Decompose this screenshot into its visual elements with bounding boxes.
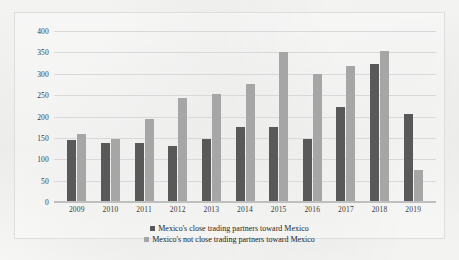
bar: [380, 51, 389, 202]
x-axis-tick-label: 2011: [127, 205, 161, 214]
chart-legend: Mexico's close trading partners toward M…: [15, 224, 444, 244]
y-axis-tick-label: 250: [37, 91, 49, 100]
bar: [303, 139, 312, 202]
bar: [236, 127, 245, 202]
bar-group: [127, 31, 161, 202]
x-axis-tick-label: 2015: [262, 205, 296, 214]
bar: [67, 140, 76, 202]
bar-group: [94, 31, 128, 202]
bar: [370, 64, 379, 202]
legend-swatch-icon: [144, 237, 149, 242]
x-axis-line: [54, 201, 436, 202]
bar: [336, 107, 345, 202]
bar-group: [262, 31, 296, 202]
bar: [346, 66, 355, 202]
bar: [404, 114, 413, 202]
bars-layer: [54, 31, 436, 202]
x-axis-tick-label: 2018: [363, 205, 397, 214]
bar: [135, 143, 144, 202]
bar-group: [396, 31, 430, 202]
legend-label: Mexico's close trading partners toward M…: [158, 224, 309, 233]
x-axis-tick-labels: 2009201020112012201320142015201620172018…: [54, 205, 436, 214]
bar-group: [295, 31, 329, 202]
chart-frame: 050100150200250300350400 200920102011201…: [14, 12, 445, 239]
bar: [414, 170, 423, 202]
bar-group: [161, 31, 195, 202]
legend-item[interactable]: Mexico's not close trading partners towa…: [144, 235, 315, 244]
y-axis-tick-label: 400: [37, 27, 49, 36]
y-axis-tick-label: 300: [37, 69, 49, 78]
plot-area: 050100150200250300350400: [54, 31, 436, 202]
bar: [178, 98, 187, 202]
legend-label: Mexico's not close trading partners towa…: [152, 235, 315, 244]
bar: [313, 74, 322, 202]
bar-group: [228, 31, 262, 202]
y-axis-tick-label: 200: [37, 112, 49, 121]
bar-group: [363, 31, 397, 202]
gridline: [54, 202, 436, 203]
x-axis-tick-label: 2013: [195, 205, 229, 214]
legend-swatch-icon: [150, 226, 155, 231]
legend-item[interactable]: Mexico's close trading partners toward M…: [150, 224, 309, 233]
bar: [269, 127, 278, 202]
bar: [111, 139, 120, 202]
x-axis-tick-label: 2017: [329, 205, 363, 214]
x-axis-tick-label: 2019: [396, 205, 430, 214]
bar: [212, 94, 221, 202]
y-axis-tick-label: 50: [41, 176, 49, 185]
bar: [101, 143, 110, 202]
y-axis-tick-label: 150: [37, 133, 49, 142]
bar: [246, 84, 255, 202]
bar: [145, 119, 154, 202]
x-axis-tick-label: 2014: [228, 205, 262, 214]
bar: [279, 52, 288, 202]
x-axis-tick-label: 2012: [161, 205, 195, 214]
x-axis-tick-label: 2016: [295, 205, 329, 214]
bar-group: [60, 31, 94, 202]
bar: [202, 139, 211, 202]
bar-group: [195, 31, 229, 202]
bar: [168, 146, 177, 202]
bar: [77, 134, 86, 202]
x-axis-tick-label: 2010: [94, 205, 128, 214]
bar-group: [329, 31, 363, 202]
y-axis-tick-label: 350: [37, 48, 49, 57]
x-axis-tick-label: 2009: [60, 205, 94, 214]
y-axis-tick-label: 0: [45, 198, 49, 207]
y-axis-tick-label: 100: [37, 155, 49, 164]
